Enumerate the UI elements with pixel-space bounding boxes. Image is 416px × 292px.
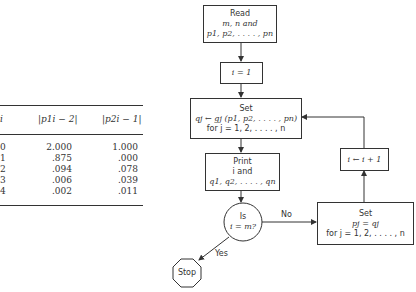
stop-label: Stop <box>173 268 201 278</box>
no-label: No <box>281 210 292 219</box>
yes-label: Yes <box>215 249 228 258</box>
decision-label: Is i = m? <box>224 212 262 232</box>
set-p-box: Set pj = qj for j = 1, 2, . . . . , n <box>317 202 414 245</box>
set-q-box: Set qj ← gj (p1, p2, . . . . , pn) for j… <box>190 98 302 139</box>
read-input-box: Read m, n and p1, p2, . . . . , pn <box>203 5 277 43</box>
init-i-box: i = 1 <box>220 62 263 84</box>
increment-i-box: i ← i + 1 <box>340 148 389 171</box>
print-box: Print i and q1, q2, . . . . , qn <box>205 153 280 191</box>
flowchart-connectors <box>0 0 416 292</box>
